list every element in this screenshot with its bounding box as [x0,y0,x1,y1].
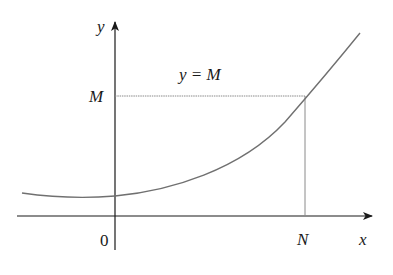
N-tick-label: N [296,230,310,249]
y-axis-label: y [95,17,105,36]
x-axis-label: x [358,230,367,249]
M-tick-label: M [88,87,104,106]
line-y-equals-M-label: y = M [177,65,222,84]
function-diagram: y x 0 M N y = M [0,0,393,275]
origin-label: 0 [100,231,109,250]
function-curve [22,33,360,197]
